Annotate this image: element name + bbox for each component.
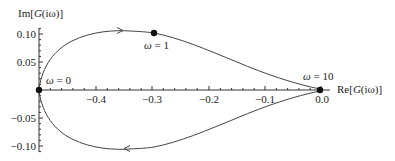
x-tick-neg-0.2: −0.2 — [199, 93, 219, 105]
y-tick-neg-0.10: −0.10 — [11, 140, 37, 152]
x-axis-label: Re[G(iω)] — [337, 83, 382, 96]
x-tick-0.0: 0.0 — [315, 93, 329, 105]
point-omega-0 — [36, 87, 42, 93]
x-tick-neg-0.3: −0.3 — [142, 93, 162, 105]
x-axis — [39, 86, 330, 90]
y-axis-label: Im[G(iω)] — [18, 7, 63, 20]
point-omega-10 — [317, 87, 323, 93]
annotation-omega-1: ω = 1 — [144, 39, 169, 51]
y-tick-neg-0.05: −0.05 — [11, 112, 37, 124]
nyquist-curve-upper — [39, 31, 320, 90]
annotation-omega-0: ω = 0 — [46, 74, 71, 86]
nyquist-curve-lower — [39, 90, 320, 149]
annotation-omega-10: ω = 10 — [303, 70, 334, 82]
point-omega-1 — [151, 30, 157, 36]
nyquist-chart: 0.10 0.05 −0.05 −0.10 −0.4 −0.3 −0.2 −0.… — [0, 0, 395, 161]
x-tick-neg-0.1: −0.1 — [255, 93, 275, 105]
y-tick-0.10: 0.10 — [17, 28, 37, 40]
x-tick-neg-0.4: −0.4 — [86, 93, 106, 105]
arrow-left-icon — [124, 146, 130, 152]
y-tick-0.05: 0.05 — [17, 56, 37, 68]
